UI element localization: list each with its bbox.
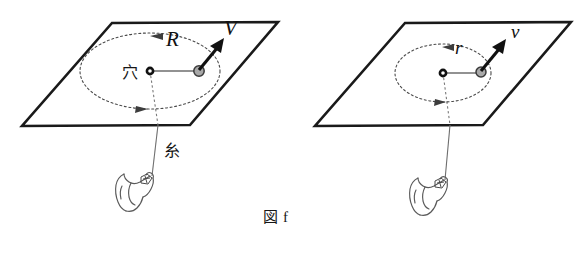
hole-marker-left <box>147 68 153 74</box>
physics-figure: R V 穴 糸 <box>0 0 580 255</box>
velocity-label-left: V <box>224 16 239 40</box>
string-below-table-left <box>152 125 158 176</box>
string-label-left: 糸 <box>164 141 180 160</box>
string-below-table-right <box>445 125 450 180</box>
hole-marker-right <box>440 70 446 76</box>
hand-right <box>410 177 448 216</box>
right-panel-group: r v <box>315 21 571 215</box>
hand-left <box>116 173 154 212</box>
radius-label-right: r <box>455 37 463 58</box>
left-panel-group: R V 穴 糸 <box>22 16 278 211</box>
caption-kanji: 図 <box>263 208 278 226</box>
velocity-label-right: v <box>511 21 520 42</box>
caption-suffix: f <box>283 209 288 225</box>
hole-label-left: 穴 <box>122 63 138 82</box>
figure-caption: 図 f <box>263 208 288 226</box>
radius-label-left: R <box>165 27 179 51</box>
